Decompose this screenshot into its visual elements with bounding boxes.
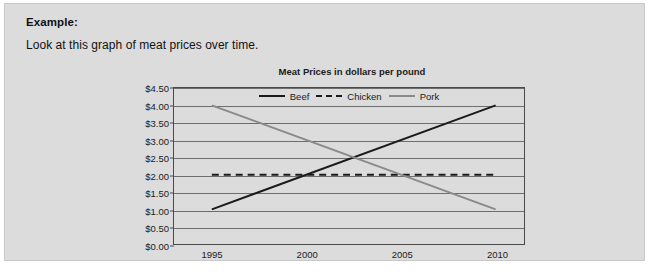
meat-prices-line-chart: Meat Prices in dollars per pound $4.50$4… (133, 66, 531, 260)
x-axis-tick-label: 2000 (297, 249, 318, 260)
y-axis-tick-label: $0.00 (145, 241, 169, 252)
example-heading: Example: (26, 16, 78, 28)
prompt-text: Look at this graph of meat prices over t… (26, 38, 258, 52)
y-axis-tick-label: $0.50 (145, 223, 169, 234)
x-axis-tick-label: 1995 (201, 249, 222, 260)
y-axis-tick-mark (170, 246, 174, 247)
y-axis-tick-label: $2.00 (145, 170, 169, 181)
y-axis-tick-label: $3.00 (145, 135, 169, 146)
plot-area: $4.50$4.00$3.50$3.00$2.50$2.00$1.50$1.00… (173, 87, 525, 245)
y-axis-tick-label: $2.50 (145, 153, 169, 164)
y-axis-tick-label: $1.00 (145, 205, 169, 216)
series-lines (174, 88, 524, 244)
y-axis-tick-label: $4.00 (145, 100, 169, 111)
x-axis-tick-label: 2010 (487, 249, 508, 260)
x-axis-tick-label: 2005 (392, 249, 413, 260)
example-panel: Example: Look at this graph of meat pric… (4, 3, 645, 261)
y-axis-tick-label: $3.50 (145, 118, 169, 129)
chart-title: Meat Prices in dollars per pound (173, 66, 531, 77)
y-axis-tick-label: $1.50 (145, 188, 169, 199)
y-axis-tick-label: $4.50 (145, 83, 169, 94)
